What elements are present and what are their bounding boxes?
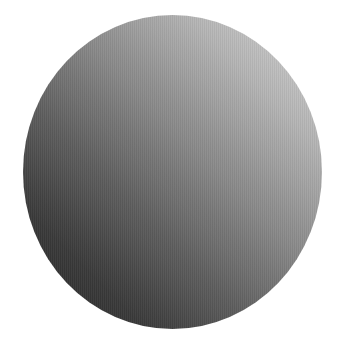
shaded-sphere [23,15,322,329]
